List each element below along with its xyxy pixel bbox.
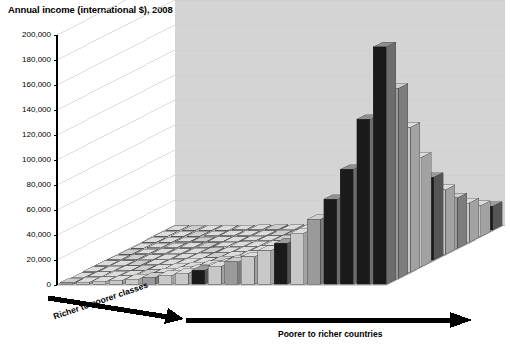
y-axis-tick-label: 140,000 [5, 105, 51, 114]
y-axis-tick-label: 180,000 [5, 55, 51, 64]
y-axis-tick-label: 60,000 [5, 205, 51, 214]
y-axis-tick-label: 200,000 [5, 30, 51, 39]
y-axis-tick-label: 100,000 [5, 155, 51, 164]
y-axis-tick-label: 80,000 [5, 180, 51, 189]
y-axis-tick-label: 120,000 [5, 130, 51, 139]
x-axis-label: Poorer to richer countries [278, 329, 382, 339]
y-axis-tick-label: 20,000 [5, 255, 51, 264]
y-axis-tick-label: 40,000 [5, 230, 51, 239]
y-axis-tick-label: 0 [5, 280, 51, 289]
chart-container: Annual income (international $), 2008 02… [0, 0, 510, 360]
y-axis-tick-label: 160,000 [5, 80, 51, 89]
